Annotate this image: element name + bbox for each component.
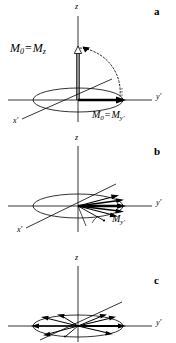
isochromat-arrowhead-c-6	[43, 332, 50, 337]
my-main: M	[111, 109, 119, 120]
panel-letter-c: c	[154, 275, 159, 286]
axis-label-y-b: y'	[156, 199, 161, 207]
isochromat-arrowhead-c-5	[31, 323, 39, 328]
label-m0-equals-my: M0=My'	[92, 110, 124, 122]
axis-label-y-a: y'	[156, 93, 161, 101]
m0-main: M	[10, 41, 20, 55]
panel-letter-b: b	[154, 146, 160, 157]
panel-c-graphic	[0, 238, 176, 343]
mz-subscript: z	[43, 47, 46, 56]
isochromat-arrowhead-b-1	[116, 198, 124, 203]
my-subscript: y'	[120, 114, 125, 122]
phase-reference-line-b	[78, 206, 86, 226]
my-vector-tip-dot	[120, 98, 123, 101]
m0-equals-sign: =	[24, 41, 33, 55]
panel-c: c z y'	[0, 238, 176, 343]
panel-b-graphic	[0, 128, 176, 238]
axis-label-x-b: x'	[17, 226, 22, 234]
axis-label-z-c: z	[75, 254, 78, 262]
label-m0-equals-mz: M0=Mz	[10, 42, 46, 56]
isochromat-arrowhead-b-0	[117, 203, 126, 209]
isochromat-arrowhead-c-2	[100, 314, 107, 319]
isochromat-vector-c-4	[46, 318, 78, 326]
axis-label-y-c: y'	[156, 319, 161, 327]
axis-label-z-b: z	[75, 134, 78, 142]
nmr-magnetization-figure: a z y' x' M0=Mz M0=My'	[0, 0, 176, 343]
isochromat-dot-b-5	[103, 219, 105, 221]
panel-letter-a: a	[154, 6, 160, 17]
panel-a-graphic	[0, 0, 176, 128]
panel-b: b z y' x' My'	[0, 128, 176, 238]
isochromat-fan-c	[31, 314, 126, 338]
axis-label-x-a: x'	[13, 117, 18, 125]
my-b-subscript: y'	[120, 218, 125, 226]
panel-a: a z y' x' M0=Mz M0=My'	[0, 0, 176, 128]
isochromat-dot-c-7	[64, 336, 66, 338]
mz-vector-arrowhead	[74, 46, 81, 54]
rotation-arc-a	[80, 48, 120, 96]
axis-label-z-a: z	[75, 3, 78, 11]
label-my-b: My'	[112, 214, 125, 226]
mz-main: M	[33, 41, 43, 55]
isochromat-vector-b-4	[78, 206, 113, 215]
